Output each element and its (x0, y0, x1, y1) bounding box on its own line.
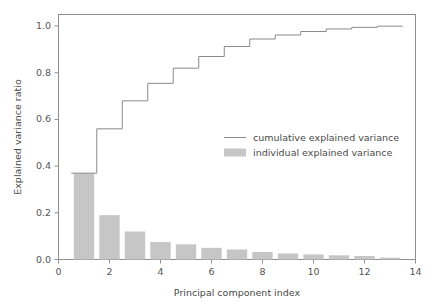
bar-individual-variance (303, 254, 323, 259)
x-tick-label: 0 (55, 266, 61, 277)
chart-figure: 0.0 0.2 0.4 0.6 0.8 1.0 0 2 4 6 8 (0, 0, 436, 307)
bar-individual-variance (278, 253, 298, 259)
bar-individual-variance (201, 248, 221, 260)
x-tick-label: 10 (307, 266, 319, 277)
y-tick-label: 0.6 (36, 113, 51, 124)
x-tick-label: 12 (358, 266, 370, 277)
y-tick-label: 0.2 (36, 207, 51, 218)
x-tick-label: 14 (409, 266, 421, 277)
x-tick-label: 6 (208, 266, 214, 277)
y-tick-label: 0.4 (36, 160, 51, 171)
legend-label-individual: individual explained variance (253, 147, 393, 158)
bar-individual-variance (74, 173, 94, 259)
bar-individual-variance (176, 244, 196, 259)
bar-individual-variance (227, 249, 247, 259)
x-tick-label: 2 (106, 266, 112, 277)
bar-individual-variance (252, 252, 272, 259)
bar-individual-variance (329, 255, 349, 259)
pca-explained-variance-chart: 0.0 0.2 0.4 0.6 0.8 1.0 0 2 4 6 8 (0, 0, 436, 307)
x-tick-label: 4 (157, 266, 163, 277)
x-tick-label: 8 (259, 266, 265, 277)
y-tick-label: 1.0 (36, 20, 51, 31)
bar-individual-variance (354, 256, 374, 260)
y-tick-label: 0.8 (36, 67, 51, 78)
bar-individual-variance (99, 215, 119, 259)
x-axis-title: Principal component index (174, 287, 301, 298)
legend-label-cumulative: cumulative explained variance (253, 132, 399, 143)
bar-individual-variance (150, 242, 170, 260)
legend-patch-marker (224, 149, 246, 157)
bar-individual-variance (380, 258, 400, 260)
y-axis-title: Explained variance ratio (12, 79, 23, 195)
y-tick-label: 0.0 (36, 254, 51, 265)
bar-individual-variance (125, 232, 145, 260)
